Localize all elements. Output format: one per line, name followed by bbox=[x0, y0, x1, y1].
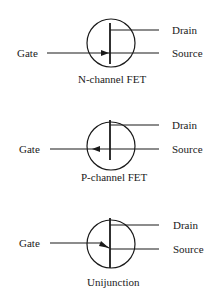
ujt-source-label: Source bbox=[173, 243, 204, 255]
ujt-gate-label: Gate bbox=[19, 237, 40, 249]
p-fet-gate-label: Gate bbox=[19, 143, 40, 155]
p-fet-envelope bbox=[87, 122, 135, 170]
n-channel-fet-symbol bbox=[47, 19, 159, 67]
p-fet-caption: P-channel FET bbox=[81, 171, 147, 183]
ujt-drain-label: Drain bbox=[173, 219, 198, 231]
n-fet-drain-label: Drain bbox=[172, 24, 197, 36]
n-fet-caption: N-channel FET bbox=[78, 73, 146, 85]
n-fet-gate-label: Gate bbox=[17, 47, 38, 59]
unijunction-symbol bbox=[50, 218, 159, 268]
ujt-envelope bbox=[87, 220, 135, 268]
ujt-arrow-icon bbox=[99, 241, 109, 248]
p-fet-arrow-icon bbox=[92, 146, 100, 152]
ujt-caption: Unijunction bbox=[87, 276, 140, 288]
p-channel-fet-symbol bbox=[50, 120, 159, 170]
n-fet-arrow-icon bbox=[101, 50, 109, 56]
p-fet-drain-label: Drain bbox=[172, 119, 197, 131]
n-fet-source-label: Source bbox=[172, 47, 203, 59]
p-fet-source-label: Source bbox=[172, 143, 203, 155]
n-fet-envelope bbox=[87, 19, 135, 67]
